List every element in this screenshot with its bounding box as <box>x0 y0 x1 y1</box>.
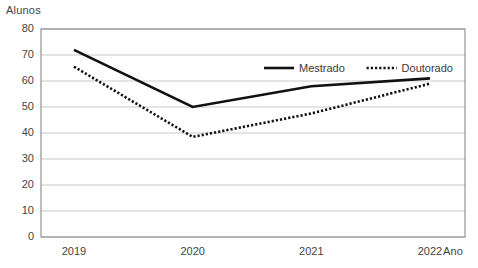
line-chart: Alunos Ano MestradoDoutorado 01020304050… <box>0 0 478 268</box>
y-tick-label-10: 10 <box>10 204 34 216</box>
y-tick-label-70: 70 <box>10 48 34 60</box>
y-tick-label-20: 20 <box>10 178 34 190</box>
y-tick-label-60: 60 <box>10 74 34 86</box>
series-layer <box>74 50 430 137</box>
legend-label-mestrado: Mestrado <box>299 62 345 74</box>
y-tick-label-50: 50 <box>10 100 34 112</box>
y-tick-label-40: 40 <box>10 126 34 138</box>
legend-label-doutorado: Doutorado <box>402 62 453 74</box>
y-tick-label-30: 30 <box>10 152 34 164</box>
x-tick-label-2019: 2019 <box>54 245 94 257</box>
series-line-doutorado <box>74 67 430 137</box>
x-tick-label-2020: 2020 <box>173 245 213 257</box>
series-line-mestrado <box>74 50 430 107</box>
plot-area: MestradoDoutorado <box>0 0 478 268</box>
y-tick-label-80: 80 <box>10 22 34 34</box>
y-axis-title: Alunos <box>6 4 41 16</box>
gridlines <box>41 29 465 237</box>
y-tick-label-0: 0 <box>10 230 34 242</box>
x-tick-label-2022: 2022 <box>410 245 450 257</box>
x-tick-label-2021: 2021 <box>291 245 331 257</box>
chart-legend: MestradoDoutorado <box>264 62 453 74</box>
